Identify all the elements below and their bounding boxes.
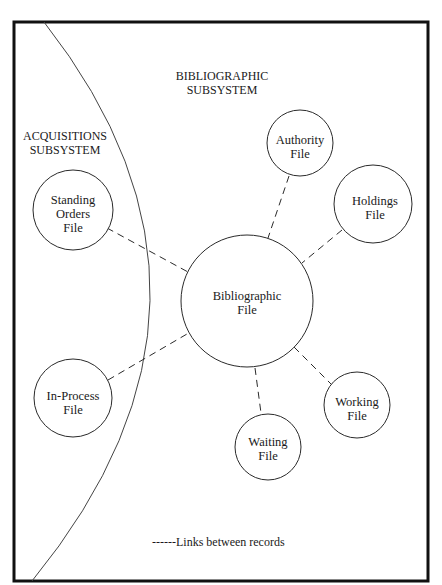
bibliographic-subsystem-label-line1: BIBLIOGRAPHIC bbox=[176, 69, 269, 83]
node-label: File bbox=[258, 449, 278, 463]
node-bibliographic-file: Bibliographic File bbox=[181, 235, 313, 367]
node-label: Waiting bbox=[248, 435, 288, 449]
node-authority-file: Authority File bbox=[267, 110, 333, 176]
node-label: Authority bbox=[276, 133, 325, 147]
node-holdings-file: Holdings File bbox=[334, 165, 412, 243]
node-label: File bbox=[63, 221, 83, 235]
node-label: File bbox=[347, 409, 367, 423]
node-working-file: Working File bbox=[324, 372, 390, 438]
node-label: Working bbox=[335, 395, 379, 409]
node-waiting-file: Waiting File bbox=[235, 414, 301, 480]
node-label: Holdings bbox=[352, 194, 398, 208]
acquisitions-subsystem-label-line2: SUBSYSTEM bbox=[30, 143, 101, 157]
subsystem-diagram: BIBLIOGRAPHIC SUBSYSTEM ACQUISITIONS SUB… bbox=[0, 0, 442, 585]
node-label: File bbox=[63, 403, 83, 417]
legend-links-between-records: ------Links between records bbox=[152, 535, 285, 549]
node-label: File bbox=[290, 147, 310, 161]
node-standing-orders-file: Standing Orders File bbox=[33, 170, 113, 250]
node-label: In-Process bbox=[47, 389, 100, 403]
node-label: File bbox=[237, 303, 257, 317]
bibliographic-subsystem-label-line2: SUBSYSTEM bbox=[187, 83, 258, 97]
node-label: Standing bbox=[51, 193, 96, 207]
acquisitions-subsystem-label-line1: ACQUISITIONS bbox=[23, 129, 107, 143]
node-label: File bbox=[365, 208, 385, 222]
node-label: Bibliographic bbox=[213, 289, 282, 303]
node-in-process-file: In-Process File bbox=[34, 359, 112, 437]
node-label: Orders bbox=[56, 207, 90, 221]
